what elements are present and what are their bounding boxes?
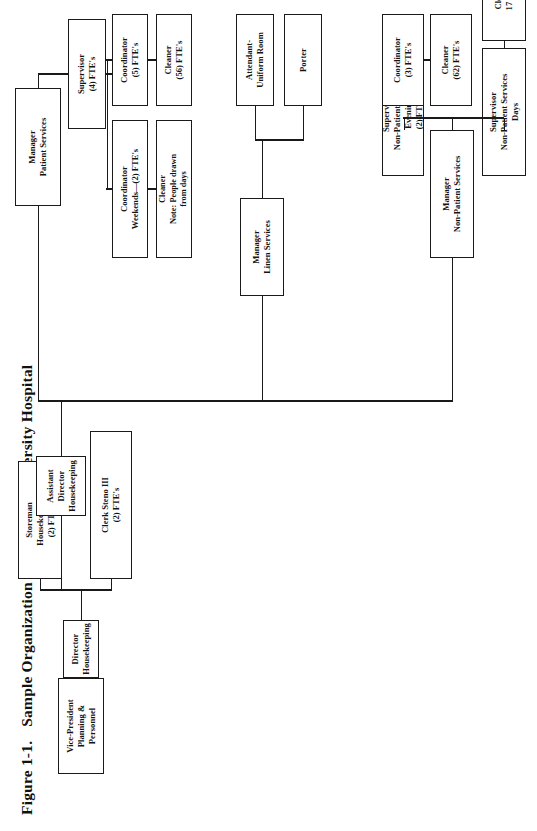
node-supervisor-patient-services[interactable]: Supervisor (4) FTE's	[68, 19, 106, 129]
node-line: Vice-President	[65, 699, 76, 752]
node-line: Note: People drawn	[169, 154, 180, 224]
connector-to-manager-nonpatient	[452, 258, 454, 402]
node-manager-patient-services[interactable]: Manager Patient Services	[15, 88, 61, 206]
node-coordinator-patient-services[interactable]: Coordinator (5) FTE's	[112, 14, 148, 106]
node-attendant-uniform-room[interactable]: Attendant- Uniform Room	[236, 14, 274, 106]
node-line: Assistant	[45, 460, 56, 512]
figure-caption: Figure 1-1.Sample Organization Chart for…	[18, 365, 36, 815]
connector-director-trunk	[81, 590, 83, 620]
node-line: Cleaner	[440, 41, 451, 80]
node-line: Supervisor	[488, 74, 499, 151]
node-line: Clerk Steno III	[100, 477, 111, 533]
connector-linen-porter	[303, 106, 305, 141]
connector-mgrpatient-supervisor-b	[38, 73, 69, 75]
connector-supeve-coord-stub	[403, 117, 404, 119]
connector-mgrnp-trunk	[452, 118, 454, 130]
node-line: Days	[510, 74, 521, 151]
figure-page: Figure 1-1.Sample Organization Chart for…	[0, 0, 537, 831]
node-line: Director	[70, 623, 81, 675]
node-line: Coordinator	[392, 37, 403, 83]
node-line: Weekends—(2) FTE's	[130, 149, 141, 229]
connector-nonpatient-bus	[403, 117, 504, 119]
connector-director-storeman	[40, 579, 42, 591]
node-line: Non-Patient Services	[499, 74, 510, 151]
node-line: Personnel	[87, 699, 98, 752]
node-manager-non-patient-services[interactable]: Manager Non-Patient Services	[430, 130, 474, 258]
connector-supdays-cleaner	[504, 41, 506, 48]
node-line: Coordinator	[119, 37, 130, 83]
connector-coordwknd-cleaner	[148, 188, 156, 190]
connector-linen-attendant	[255, 106, 257, 141]
node-cleaner-days[interactable]: Cleaner 17 FTEs	[482, 0, 526, 41]
node-supervisor-non-patient-days[interactable]: Supervisor Non-Patient Services Days	[482, 48, 526, 176]
node-line: 17 FTEs	[504, 0, 515, 10]
node-line: (3) FTE's	[403, 37, 414, 83]
node-line: Planning &	[76, 699, 87, 752]
node-line: Non-Patient Services	[452, 156, 463, 233]
connector-to-manager-linen	[262, 296, 264, 402]
node-line: Manager	[441, 156, 452, 233]
connector-mgrpatient-supervisor-a	[38, 74, 40, 88]
node-line: Coordinator	[119, 149, 130, 229]
node-line: Manager	[27, 118, 38, 176]
node-porter[interactable]: Porter	[284, 14, 322, 106]
connector-vp-director	[81, 677, 83, 678]
node-director-housekeeping[interactable]: Director Housekeeping	[63, 620, 99, 678]
connector-linen-bus	[255, 139, 303, 141]
node-line: Attendant-	[244, 32, 255, 88]
node-line: Cleaner	[163, 41, 174, 80]
node-coordinator-evenings[interactable]: Coordinator (3) FTE's	[382, 14, 424, 106]
org-chart-canvas: Figure 1-1.Sample Organization Chart for…	[0, 0, 537, 831]
node-cleaner-weekends[interactable]: Cleaner Note: People drawn from days	[156, 120, 192, 258]
node-line: (4) FTE's	[87, 54, 98, 94]
node-line: (2) FTE's	[111, 477, 122, 533]
node-line: Cleaner	[158, 154, 169, 224]
connector-coordpatient-cleaner	[148, 59, 156, 61]
node-manager-linen-services[interactable]: Manager Linen Services	[240, 198, 284, 296]
connector-np-supervisor-days	[504, 118, 506, 130]
node-line: Manager	[251, 220, 262, 274]
connector-director-bus	[40, 589, 112, 591]
connector-asstdir-trunk	[61, 401, 63, 456]
node-assistant-director-housekeeping[interactable]: Assistant Director Housekeeping	[36, 456, 86, 516]
connector-np-supervisor-eve	[404, 118, 406, 130]
connector-supervisor-bus	[107, 60, 109, 190]
connector-supervisor-coordpatient	[106, 59, 112, 61]
node-line: Director	[56, 460, 67, 512]
node-line: (62) FTE's	[451, 41, 462, 80]
node-coordinator-weekends[interactable]: Coordinator Weekends—(2) FTE's	[112, 120, 148, 258]
node-line: from days	[179, 154, 190, 224]
node-cleaner-patient-services[interactable]: Cleaner (56) FTE's	[156, 14, 192, 106]
node-line: Cleaner	[493, 0, 504, 10]
connector-mgrlinen-trunk	[262, 140, 264, 198]
connector-director-asstdir	[61, 516, 63, 591]
node-line: Storeman	[24, 494, 35, 546]
node-line: Supervisor	[76, 54, 87, 94]
node-line: (56) FTE's	[174, 41, 185, 80]
connector-coordeve-cleaner	[424, 59, 430, 61]
node-cleaner-evenings[interactable]: Cleaner (62) FTE's	[430, 14, 472, 106]
node-line: Housekeeping	[81, 623, 92, 675]
connector-director-clerk	[111, 579, 113, 591]
node-line: (5) FTE's	[130, 37, 141, 83]
connector-supervisor-coordwknd	[106, 188, 112, 190]
node-line: Uniform Room	[255, 32, 266, 88]
node-vice-president[interactable]: Vice-President Planning & Personnel	[58, 678, 104, 774]
node-line: Patient Services	[38, 118, 49, 176]
connector-to-manager-patient	[38, 206, 40, 402]
node-line: Porter	[298, 48, 309, 72]
connector-manager-bus	[38, 400, 453, 402]
node-line: Housekeeping	[67, 460, 78, 512]
node-line: Linen Services	[262, 220, 273, 274]
node-clerk-steno-iii[interactable]: Clerk Steno III (2) FTE's	[90, 431, 132, 579]
figure-number: Figure 1-1.	[18, 741, 35, 815]
